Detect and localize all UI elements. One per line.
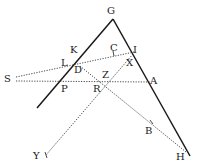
label-k: K [70, 44, 78, 55]
tick-b [150, 120, 153, 124]
label-x: X [126, 57, 134, 68]
label-d: D [74, 64, 82, 75]
label-a: A [149, 75, 158, 86]
label-r: R [93, 83, 101, 94]
line-xy [46, 54, 133, 155]
label-z: Z [102, 69, 109, 80]
label-y: Y [32, 150, 40, 161]
label-h: H [176, 151, 185, 162]
label-g: G [107, 5, 115, 16]
line-dh [80, 66, 186, 152]
label-i: I [133, 44, 137, 55]
tick-y [45, 152, 47, 158]
label-b: B [145, 125, 152, 136]
label-l: L [61, 57, 68, 68]
geometric-diagram: G K L D C I X S P Z R A B Y H [0, 0, 201, 168]
label-s: S [4, 73, 11, 84]
label-p: P [61, 83, 68, 94]
line-sa [16, 81, 150, 82]
label-c: C [110, 42, 118, 53]
